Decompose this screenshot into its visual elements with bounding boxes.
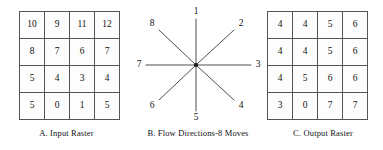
- output-cell: 4: [293, 12, 318, 39]
- output-cell: 5: [318, 12, 343, 39]
- table-row: 8 7 6 7: [20, 39, 120, 66]
- output-cell: 7: [318, 93, 343, 120]
- direction-label-5: 5: [194, 113, 199, 123]
- flow-directions-panel: 1 2 3 4 5 6 7 8: [133, 0, 263, 125]
- input-raster-grid: 10 9 11 12 8 7 6 7 5 4 3 4: [19, 11, 120, 120]
- direction-label-2: 2: [239, 19, 244, 29]
- center-hub-icon: [194, 63, 198, 67]
- input-raster-caption: A. Input Raster: [0, 128, 133, 138]
- output-cell: 4: [293, 39, 318, 66]
- output-cell: 6: [343, 66, 368, 93]
- input-raster-panel: 10 9 11 12 8 7 6 7 5 4 3 4: [19, 11, 120, 120]
- input-cell: 9: [45, 12, 70, 39]
- input-cell: 1: [70, 93, 95, 120]
- ray-4: [196, 65, 234, 100]
- table-row: 4 5 6 6: [268, 66, 368, 93]
- direction-label-3: 3: [256, 60, 261, 70]
- output-cell: 3: [268, 93, 293, 120]
- ray-8: [159, 30, 196, 65]
- input-cell: 10: [20, 12, 45, 39]
- input-cell: 6: [70, 39, 95, 66]
- direction-label-1: 1: [194, 7, 199, 17]
- input-cell: 5: [95, 93, 120, 120]
- output-cell: 4: [268, 39, 293, 66]
- output-cell: 6: [343, 39, 368, 66]
- flow-directions-caption: B. Flow Directions-8 Moves: [133, 128, 263, 138]
- table-row: 5 0 1 5: [20, 93, 120, 120]
- output-cell: 6: [318, 66, 343, 93]
- output-cell: 4: [268, 66, 293, 93]
- input-cell: 7: [45, 39, 70, 66]
- output-cell: 7: [343, 93, 368, 120]
- raster-flow-direction-figure: 10 9 11 12 8 7 6 7 5 4 3 4: [0, 0, 383, 150]
- table-row: 10 9 11 12: [20, 12, 120, 39]
- input-cell: 0: [45, 93, 70, 120]
- input-cell: 11: [70, 12, 95, 39]
- output-cell: 0: [293, 93, 318, 120]
- table-row: 5 4 3 4: [20, 66, 120, 93]
- table-row: 3 0 7 7: [268, 93, 368, 120]
- direction-label-7: 7: [137, 60, 142, 70]
- input-cell: 12: [95, 12, 120, 39]
- output-cell: 6: [343, 12, 368, 39]
- ray-6: [159, 65, 196, 100]
- direction-label-6: 6: [150, 101, 155, 111]
- input-cell: 8: [20, 39, 45, 66]
- output-cell: 4: [268, 12, 293, 39]
- input-cell: 3: [70, 66, 95, 93]
- output-cell: 5: [293, 66, 318, 93]
- table-row: 4 4 5 6: [268, 12, 368, 39]
- input-cell: 4: [95, 66, 120, 93]
- output-raster-caption: C. Output Raster: [263, 128, 383, 138]
- table-row: 4 4 5 6: [268, 39, 368, 66]
- output-raster-panel: 4 4 5 6 4 4 5 6 4 5 6 6 3: [267, 11, 368, 120]
- ray-2: [196, 30, 234, 65]
- input-cell: 7: [95, 39, 120, 66]
- input-cell: 5: [20, 93, 45, 120]
- direction-label-4: 4: [239, 101, 244, 111]
- input-cell: 5: [20, 66, 45, 93]
- input-cell: 4: [45, 66, 70, 93]
- output-cell: 5: [318, 39, 343, 66]
- output-raster-grid: 4 4 5 6 4 4 5 6 4 5 6 6 3: [267, 11, 368, 120]
- direction-label-8: 8: [150, 19, 155, 29]
